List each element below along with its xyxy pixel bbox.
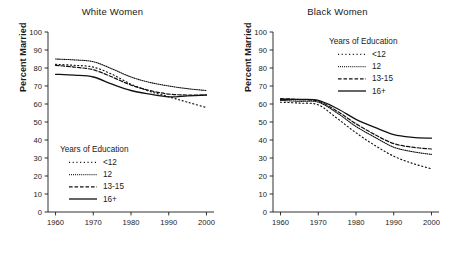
white-y-tick-label: 30 [34,154,42,163]
black-x-tick-label: 1990 [385,218,402,227]
white-legend-label-3: 16+ [103,195,117,204]
white-x-tick-label: 1990 [160,218,177,227]
white-legend-label-1: 12 [103,170,113,179]
panel-black-women: Black Women Percent Married 010203040506… [225,0,450,260]
white-y-tick-label: 10 [34,190,42,199]
black-axis-lines [273,32,439,212]
black-y-tick-label: 30 [259,154,267,163]
black-y-tick-label: 50 [259,118,267,127]
white-legend-label-0: <12 [103,158,117,167]
white-x-tick-label: 2000 [198,218,215,227]
white-y-tick-label: 50 [34,118,42,127]
white-axis-lines [48,32,214,212]
black-series-1315 [281,99,432,149]
black-y-tick-label: 90 [259,46,267,55]
plot-area-white: 0102030405060708090100196019701980199020… [0,0,225,245]
white-legend-title: Years of Education [60,145,129,154]
black-legend-title: Years of Education [329,37,398,46]
white-y-tick-label: 40 [34,136,42,145]
black-y-tick-label: 60 [259,100,267,109]
white-y-tick-label: 70 [34,82,42,91]
black-y-tick-label: 10 [259,190,267,199]
white-legend: Years of Education<121213-1516+ [60,145,129,204]
white-y-tick-label: 20 [34,172,42,181]
black-y-tick-label: 20 [259,172,267,181]
black-y-tick-label: 100 [254,28,267,37]
black-y-tick-label: 0 [263,208,267,217]
black-legend-label-3: 16+ [372,87,386,96]
white-y-tick-label: 60 [34,100,42,109]
black-legend: Years of Education<121213-1516+ [329,37,398,96]
black-x-tick-label: 2000 [423,218,440,227]
black-y-tick-label: 40 [259,136,267,145]
black-y-tick-label: 70 [259,82,267,91]
plot-area-black: 0102030405060708090100196019701980199020… [225,0,450,245]
black-series-12 [281,102,432,169]
white-y-tick-label: 90 [34,46,42,55]
white-series-12 [56,59,207,91]
white-y-tick-label: 0 [38,208,42,217]
white-x-tick-label: 1980 [123,218,140,227]
white-y-tick-label: 100 [29,28,42,37]
white-legend-label-2: 13-15 [103,182,124,191]
black-legend-label-2: 13-15 [372,74,393,83]
plot-svg-white: 0102030405060708090100196019701980199020… [0,0,225,245]
plot-svg-black: 0102030405060708090100196019701980199020… [225,0,450,245]
figure-two-panel-line-chart: White Women Percent Married 010203040506… [0,0,450,260]
black-legend-label-0: <12 [372,50,386,59]
white-x-tick-label: 1970 [85,218,102,227]
black-legend-label-1: 12 [372,62,382,71]
black-x-tick-label: 1960 [272,218,289,227]
white-y-tick-label: 80 [34,64,42,73]
black-x-tick-label: 1980 [348,218,365,227]
white-x-tick-label: 1960 [47,218,64,227]
white-series-12 [56,64,207,107]
panel-white-women: White Women Percent Married 010203040506… [0,0,225,260]
black-y-tick-label: 80 [259,64,267,73]
black-x-tick-label: 1970 [310,218,327,227]
